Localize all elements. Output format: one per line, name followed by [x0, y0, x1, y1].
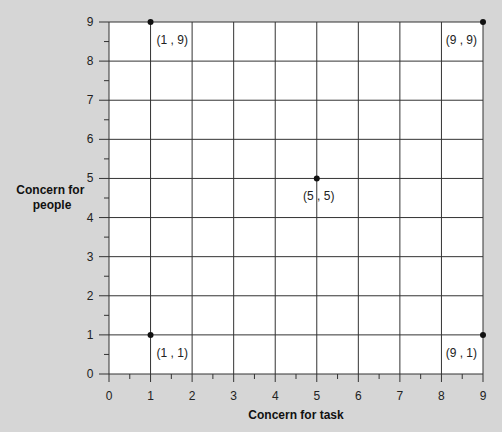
x-tick-label: 1	[147, 389, 154, 403]
y-tick-label: 2	[87, 289, 94, 303]
data-point-marker	[148, 19, 154, 25]
x-tick-label: 3	[230, 389, 237, 403]
data-point-marker	[480, 19, 486, 25]
managerial-grid-chart: 0123456789 0123456789 (1 , 9)(9 , 9)(5 ,…	[0, 0, 502, 432]
data-point-label: (1 , 9)	[157, 33, 188, 47]
y-tick-label: 1	[87, 328, 94, 342]
x-tick-label: 5	[313, 389, 320, 403]
y-axis-title-line-2: people	[33, 198, 72, 212]
x-tick-label: 8	[438, 389, 445, 403]
y-tick-label: 3	[87, 250, 94, 264]
data-point-label: (9 , 1)	[446, 346, 477, 360]
x-axis-title: Concern for task	[248, 408, 344, 422]
x-tick-label: 0	[106, 389, 113, 403]
x-tick-labels: 0123456789	[106, 389, 487, 403]
y-tick-label: 7	[87, 93, 94, 107]
y-tick-label: 4	[87, 211, 94, 225]
x-tick-label: 2	[189, 389, 196, 403]
data-point-label: (5 , 5)	[303, 189, 334, 203]
y-tick-labels: 0123456789	[87, 15, 94, 381]
x-tick-label: 6	[355, 389, 362, 403]
data-point-label: (9 , 9)	[446, 33, 477, 47]
plot-area	[109, 22, 483, 374]
data-point-marker	[314, 175, 320, 181]
data-point-marker	[480, 332, 486, 338]
y-tick-label: 0	[87, 367, 94, 381]
x-tick-label: 9	[480, 389, 487, 403]
y-axis-title-line-1: Concern for	[16, 183, 84, 197]
y-tick-label: 5	[87, 171, 94, 185]
x-tick-label: 4	[272, 389, 279, 403]
y-tick-label: 6	[87, 132, 94, 146]
y-tick-label: 9	[87, 15, 94, 29]
y-axis-title: Concern for people	[16, 183, 87, 212]
data-point-label: (1 , 1)	[157, 346, 188, 360]
x-tick-label: 7	[397, 389, 404, 403]
data-point-marker	[148, 332, 154, 338]
y-tick-label: 8	[87, 54, 94, 68]
